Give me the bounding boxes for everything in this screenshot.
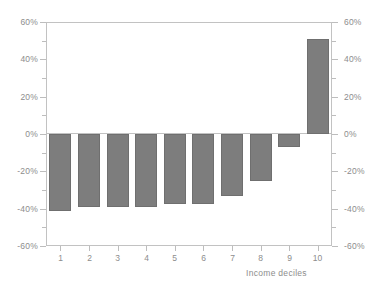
x-tick-label-5: 5	[160, 253, 189, 264]
x-tick-2	[89, 246, 90, 251]
y-tick-minor-left	[42, 153, 46, 154]
bar-4	[135, 134, 157, 207]
x-tick-10	[318, 246, 319, 251]
x-tick-label-4: 4	[132, 253, 161, 264]
x-axis-title: Income deciles	[246, 268, 307, 278]
x-tick-label-10: 10	[303, 253, 332, 264]
y-tick-minor-left	[42, 41, 46, 42]
y-tick-major-right	[332, 246, 338, 247]
y-tick-minor-right	[332, 227, 336, 228]
y-tick-major-right	[332, 171, 338, 172]
y-tick-label-left: 20%	[20, 92, 38, 102]
y-tick-label-right: 20%	[344, 92, 362, 102]
x-tick-label-6: 6	[189, 253, 218, 264]
y-tick-label-right: -20%	[344, 166, 365, 176]
y-tick-major-right	[332, 97, 338, 98]
y-tick-label-right: -40%	[344, 204, 365, 214]
y-tick-major-left	[40, 134, 46, 135]
bar-5	[164, 134, 186, 204]
y-tick-major-right	[332, 209, 338, 210]
x-tick-9	[289, 246, 290, 251]
bar-6	[192, 134, 214, 204]
y-tick-minor-right	[332, 153, 336, 154]
y-tick-label-right: 0%	[344, 129, 357, 139]
bar-chart: 60%60%40%40%20%20%0%0%-20%-20%-40%-40%-6…	[0, 0, 386, 291]
x-tick-label-1: 1	[46, 253, 75, 264]
y-tick-minor-right	[332, 41, 336, 42]
bar-9	[278, 134, 300, 147]
y-tick-label-right: 60%	[344, 17, 362, 27]
x-tick-label-8: 8	[246, 253, 275, 264]
bar-8	[250, 134, 272, 181]
x-tick-label-2: 2	[75, 253, 104, 264]
y-tick-minor-left	[42, 227, 46, 228]
y-tick-minor-right	[332, 115, 336, 116]
y-tick-label-right: -60%	[344, 241, 365, 251]
y-tick-major-left	[40, 209, 46, 210]
y-tick-minor-left	[42, 115, 46, 116]
x-tick-8	[261, 246, 262, 251]
x-tick-label-9: 9	[275, 253, 304, 264]
bar-1	[49, 134, 71, 211]
bar-10	[307, 39, 329, 134]
y-tick-minor-left	[42, 78, 46, 79]
y-tick-major-left	[40, 246, 46, 247]
x-tick-label-3: 3	[103, 253, 132, 264]
y-tick-major-right	[332, 59, 338, 60]
x-tick-5	[175, 246, 176, 251]
y-tick-minor-left	[42, 190, 46, 191]
y-tick-label-left: 40%	[20, 54, 38, 64]
y-tick-major-left	[40, 171, 46, 172]
y-tick-major-left	[40, 97, 46, 98]
y-tick-label-left: -60%	[17, 241, 38, 251]
y-tick-label-left: -40%	[17, 204, 38, 214]
bar-2	[78, 134, 100, 207]
bar-7	[221, 134, 243, 196]
bar-3	[107, 134, 129, 207]
y-tick-label-left: 60%	[20, 17, 38, 27]
y-tick-minor-right	[332, 78, 336, 79]
y-tick-label-left: 0%	[25, 129, 38, 139]
x-tick-4	[146, 246, 147, 251]
y-tick-major-right	[332, 134, 338, 135]
x-tick-label-7: 7	[218, 253, 247, 264]
y-tick-label-left: -20%	[17, 166, 38, 176]
y-tick-minor-right	[332, 190, 336, 191]
y-tick-major-left	[40, 59, 46, 60]
x-tick-1	[60, 246, 61, 251]
y-tick-major-left	[40, 22, 46, 23]
x-tick-7	[232, 246, 233, 251]
x-tick-6	[203, 246, 204, 251]
y-tick-major-right	[332, 22, 338, 23]
y-tick-label-right: 40%	[344, 54, 362, 64]
x-tick-3	[118, 246, 119, 251]
